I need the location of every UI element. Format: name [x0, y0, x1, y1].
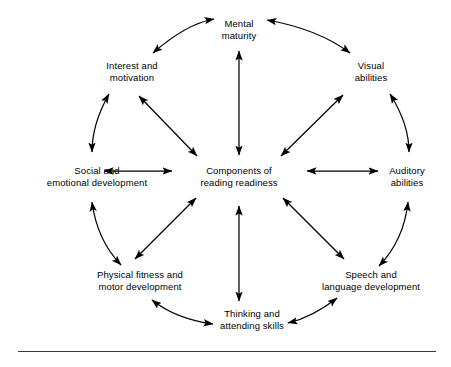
node-auditory-abilities-line2: abilities [362, 177, 451, 189]
node-mental-maturity-line1: Mental [224, 18, 253, 29]
spoke-center-to-interest-motivation [139, 96, 197, 156]
node-thinking-attending-line1: Thinking and [224, 308, 280, 319]
node-interest-motivation-line1: Interest and [106, 60, 157, 71]
node-visual-abilities-line1: Visual [358, 60, 384, 71]
arc-social-emotional-to-physical-fitness [92, 202, 121, 265]
node-speech-language-line2: language development [301, 281, 441, 293]
node-center-components-of-reading-readiness: Components of reading readiness [180, 165, 298, 188]
spoke-center-to-speech-language [283, 198, 344, 259]
node-thinking-attending-skills: Thinking and attending skills [192, 308, 312, 331]
node-physical-fitness-line2: motor development [70, 281, 210, 293]
node-physical-fitness-line1: Physical fitness and [97, 269, 183, 280]
spoke-center-to-physical-fitness [135, 198, 196, 259]
node-auditory-abilities: Auditory abilities [362, 165, 451, 188]
node-mental-maturity: Mental maturity [189, 18, 289, 41]
node-center-line1: Components of [206, 165, 272, 176]
node-social-emotional-line1: Social and [74, 165, 119, 176]
bottom-horizontal-rule [18, 351, 436, 352]
node-mental-maturity-line2: maturity [189, 30, 289, 42]
node-speech-language-line1: Speech and [345, 269, 397, 280]
node-physical-fitness-motor-development: Physical fitness and motor development [70, 269, 210, 292]
arc-visual-abilities-to-auditory-abilities [390, 94, 409, 152]
node-visual-abilities-line2: abilities [326, 72, 416, 84]
node-social-emotional-development: Social and emotional development [24, 165, 170, 188]
node-interest-motivation-line2: motivation [86, 72, 178, 84]
arc-auditory-abilities-to-speech-language [379, 202, 408, 266]
node-thinking-attending-line2: attending skills [192, 320, 312, 332]
node-interest-motivation: Interest and motivation [86, 60, 178, 83]
node-speech-language-development: Speech and language development [301, 269, 441, 292]
node-center-line2: reading readiness [180, 177, 298, 189]
spoke-center-to-visual-abilities [281, 95, 343, 156]
arc-interest-motivation-to-social-emotional [92, 94, 109, 152]
reading-readiness-diagram: Mental maturity Visual abilities Auditor… [0, 0, 451, 367]
node-visual-abilities: Visual abilities [326, 60, 416, 83]
node-social-emotional-line2: emotional development [24, 177, 170, 189]
node-auditory-abilities-line1: Auditory [389, 165, 425, 176]
